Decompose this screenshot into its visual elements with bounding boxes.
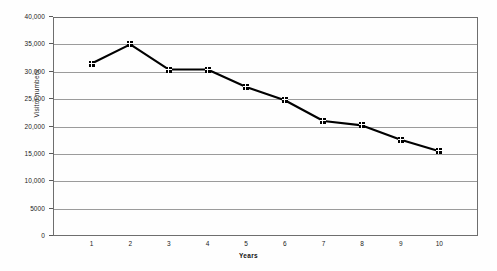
gridline (54, 154, 477, 155)
gridline (54, 209, 477, 210)
y-tick-label: 20,000 (5, 123, 45, 130)
data-point-marker (205, 67, 211, 73)
y-tick-label: 35,000 (5, 40, 45, 47)
chart-figure: Visitor numbers 0500010,00015,00020,0002… (0, 0, 497, 271)
data-point-marker (166, 67, 172, 73)
x-tick-label: 2 (120, 240, 140, 247)
gridline (54, 181, 477, 182)
x-tick-label: 9 (391, 240, 411, 247)
y-tick-label: 40,000 (5, 13, 45, 20)
gridline (54, 72, 477, 73)
data-point-marker (398, 137, 404, 143)
y-tick-label: 15,000 (5, 150, 45, 157)
x-tick-label: 7 (313, 240, 333, 247)
data-point-marker (436, 148, 442, 154)
y-tick-label: 25,000 (5, 95, 45, 102)
plot-area (53, 17, 478, 236)
data-point-marker (320, 118, 326, 124)
x-tick-label: 8 (352, 240, 372, 247)
gridline (54, 44, 477, 45)
y-tick-label: 30,000 (5, 68, 45, 75)
gridline (54, 127, 477, 128)
data-point-marker (243, 84, 249, 90)
data-point-marker (359, 122, 365, 128)
data-point-marker (89, 61, 95, 67)
x-tick-label: 6 (275, 240, 295, 247)
x-tick-label: 10 (429, 240, 449, 247)
y-tick-label: 0 (5, 232, 45, 239)
y-tick-label: 5000 (5, 205, 45, 212)
x-tick-label: 3 (159, 240, 179, 247)
x-axis-title: Years (0, 252, 497, 259)
x-tick-label: 1 (82, 240, 102, 247)
gridline (54, 99, 477, 100)
y-tick-label: 10,000 (5, 177, 45, 184)
data-point-marker (127, 41, 133, 47)
x-tick-label: 5 (236, 240, 256, 247)
x-tick-label: 4 (198, 240, 218, 247)
data-point-marker (282, 97, 288, 103)
